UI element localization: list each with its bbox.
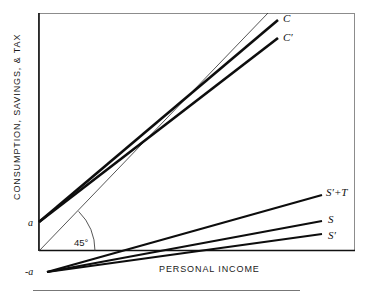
curve-label-s-prime-plus-t: S′+T [326, 186, 348, 198]
intercept-label-minus-a: -a [25, 266, 33, 277]
x-axis-label: PERSONAL INCOME [159, 264, 260, 274]
curve-label-c: C [283, 12, 291, 24]
y-axis-label: CONSUMPTION, SAVINGS, & TAX [12, 34, 22, 200]
curve-label-s-prime: S′ [328, 229, 337, 241]
intercept-label-a: a [28, 217, 33, 228]
angle-label-45: 45° [74, 237, 89, 248]
chart-svg: CONSUMPTION, SAVINGS, & TAX PERSONAL INC… [0, 0, 367, 300]
chart-background [0, 0, 367, 300]
curve-label-c-prime: C′ [283, 31, 293, 43]
curve-label-s: S [328, 213, 334, 225]
consumption-savings-tax-chart: CONSUMPTION, SAVINGS, & TAX PERSONAL INC… [0, 0, 367, 300]
